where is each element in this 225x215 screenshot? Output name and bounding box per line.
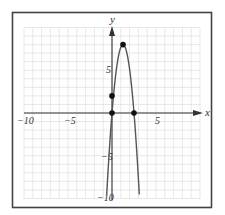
x-tick-5: 5 xyxy=(155,115,160,126)
parabola-graph: x y −10 −5 5 5 −5 −10 xyxy=(0,0,225,215)
y-tick-neg10: −10 xyxy=(97,192,114,203)
y-axis-label: y xyxy=(109,13,115,25)
data-point xyxy=(109,110,115,116)
x-axis-label: x xyxy=(204,106,210,118)
x-tick-neg5: −5 xyxy=(64,115,76,126)
data-point xyxy=(109,93,115,99)
y-tick-neg5: −5 xyxy=(101,151,113,162)
x-tick-neg10: −10 xyxy=(17,115,34,126)
y-tick-5: 5 xyxy=(106,64,111,75)
data-point xyxy=(120,42,126,48)
data-point xyxy=(131,110,137,116)
